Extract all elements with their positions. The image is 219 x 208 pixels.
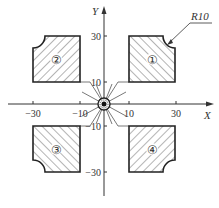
radius-annotation: R10	[167, 10, 212, 45]
region-4-label: ④	[147, 143, 158, 157]
y-tick-label: 30	[91, 31, 101, 42]
y-axis-arrow-icon	[102, 6, 107, 14]
y-axis-label: Y	[92, 5, 100, 17]
x-tick-label: 30	[171, 108, 181, 119]
x-tick-label: −10	[72, 108, 88, 119]
x-tick-label: 10	[124, 108, 134, 119]
radius-label: R10	[190, 10, 209, 22]
region-2-label: ②	[51, 53, 62, 67]
coordinate-diagram: ① ② ③ ④ R10 Y X −30 −10 10 30 30 10 −10 …	[0, 0, 219, 208]
x-axis-arrow-icon	[206, 102, 214, 107]
x-axis-label: X	[203, 109, 212, 121]
y-tick-label: −30	[85, 167, 101, 178]
y-tick-label: 10	[91, 77, 101, 88]
y-tick-label: −10	[85, 121, 101, 132]
origin-marker	[98, 98, 110, 110]
region-3-label: ③	[51, 143, 62, 157]
x-axis	[8, 102, 214, 107]
x-tick-label: −30	[25, 108, 41, 119]
region-1-label: ①	[147, 53, 158, 67]
